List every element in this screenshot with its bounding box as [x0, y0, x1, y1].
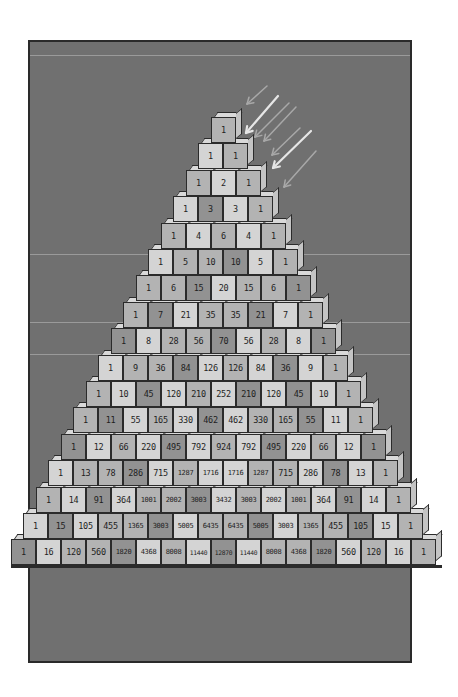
cube-number: 2002 [261, 487, 286, 513]
number-cube: 4368 [286, 539, 311, 565]
number-cube: 8 [286, 328, 311, 354]
number-cube: 4 [186, 223, 211, 249]
cube-number: 12 [86, 434, 111, 460]
cube-number: 455 [98, 513, 123, 539]
cube-number: 7 [148, 302, 173, 328]
number-cube: 6 [161, 275, 186, 301]
number-cube: 3003 [273, 513, 298, 539]
number-cube: 1 [298, 302, 323, 328]
number-cube: 1 [311, 328, 336, 354]
number-cube: 3003 [148, 513, 173, 539]
cube-number: 4 [236, 223, 261, 249]
cube-side-face [273, 187, 279, 218]
cube-number: 105 [348, 513, 373, 539]
cube-number: 36 [273, 355, 298, 381]
cube-number: 28 [261, 328, 286, 354]
cube-number: 120 [361, 539, 386, 565]
cube-number: 10 [311, 381, 336, 407]
number-cube: 1 [373, 460, 398, 486]
number-cube: 66 [111, 434, 136, 460]
cube-number: 6435 [198, 513, 223, 539]
cube-side-face [348, 346, 354, 377]
cube-number: 6 [211, 223, 236, 249]
cube-side-face [298, 240, 304, 271]
number-cube: 1716 [223, 460, 248, 486]
cube-number: 9 [298, 355, 323, 381]
cube-number: 462 [223, 407, 248, 433]
number-cube: 560 [86, 539, 111, 565]
cube-number: 1 [48, 460, 73, 486]
number-cube: 1001 [136, 487, 161, 513]
cube-number: 792 [236, 434, 261, 460]
cube-number: 330 [248, 407, 273, 433]
number-cube: 35 [198, 302, 223, 328]
cube-number: 1 [323, 355, 348, 381]
cube-number: 5005 [248, 513, 273, 539]
number-cube: 220 [136, 434, 161, 460]
number-cube: 3 [223, 196, 248, 222]
number-cube: 15 [186, 275, 211, 301]
number-cube: 7 [148, 302, 173, 328]
cube-number: 78 [323, 460, 348, 486]
number-cube: 1 [348, 407, 373, 433]
number-cube: 1 [36, 487, 61, 513]
cube-number: 220 [286, 434, 311, 460]
cube-number: 1287 [248, 460, 273, 486]
number-cube: 1 [198, 143, 223, 169]
cube-number: 21 [248, 302, 273, 328]
cube-side-face [236, 108, 242, 139]
cube-number: 1 [361, 434, 386, 460]
number-cube: 12 [86, 434, 111, 460]
cube-number: 91 [86, 487, 111, 513]
cube-number: 924 [211, 434, 236, 460]
cube-number: 1 [311, 328, 336, 354]
number-cube: 16 [36, 539, 61, 565]
cube-number: 78 [98, 460, 123, 486]
cube-number: 66 [311, 434, 336, 460]
number-cube: 1 [173, 196, 198, 222]
cube-number: 120 [61, 539, 86, 565]
number-cube: 330 [248, 407, 273, 433]
number-cube: 1 [123, 302, 148, 328]
number-cube: 2 [211, 170, 236, 196]
number-cube: 1 [286, 275, 311, 301]
cube-number: 15 [48, 513, 73, 539]
number-cube: 21 [173, 302, 198, 328]
cube-number: 105 [73, 513, 98, 539]
cube-number: 1 [73, 407, 98, 433]
number-cube: 252 [211, 381, 236, 407]
cube-number: 1820 [311, 539, 336, 565]
cube-number: 286 [123, 460, 148, 486]
number-cube: 210 [236, 381, 261, 407]
cube-number: 3003 [273, 513, 298, 539]
number-cube: 5005 [173, 513, 198, 539]
number-cube: 10 [111, 381, 136, 407]
cube-side-face [386, 425, 392, 456]
cube-number: 13 [348, 460, 373, 486]
number-cube: 12 [336, 434, 361, 460]
cube-number: 1 [173, 196, 198, 222]
cube-number: 560 [86, 539, 111, 565]
cube-number: 1 [86, 381, 111, 407]
cube-number: 1 [123, 302, 148, 328]
number-cube: 66 [311, 434, 336, 460]
cube-number: 1 [248, 196, 273, 222]
cube-number: 13 [73, 460, 98, 486]
number-cube: 6 [211, 223, 236, 249]
number-cube: 220 [286, 434, 311, 460]
cube-number: 1 [298, 302, 323, 328]
cube-number: 14 [61, 487, 86, 513]
number-cube: 120 [361, 539, 386, 565]
cube-number: 5005 [173, 513, 198, 539]
number-cube: 45 [286, 381, 311, 407]
cube-side-face [436, 530, 442, 561]
cube-number: 3 [198, 196, 223, 222]
number-cube: 1716 [198, 460, 223, 486]
cube-number: 55 [298, 407, 323, 433]
number-cube: 6435 [198, 513, 223, 539]
number-cube: 120 [261, 381, 286, 407]
number-cube: 16 [386, 539, 411, 565]
number-cube: 10 [311, 381, 336, 407]
cube-number: 120 [261, 381, 286, 407]
cube-number: 1 [261, 223, 286, 249]
